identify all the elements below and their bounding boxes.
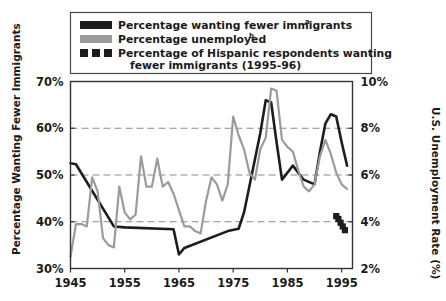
y-axis-title: Percentage Wanting Fewer Immigrants [10,23,22,255]
legend-swatch-gray-bar [80,35,112,43]
y2-tick-label: 10% [361,75,389,89]
chart-figure: Percentage wanting fewer immigrants a Pe… [0,0,446,301]
x-tick-label: 1995 [326,276,358,290]
series-marker [342,227,348,233]
y-tick-label: 60% [36,121,64,135]
legend-label-2-line2: fewer immigrants (1995-96) [130,59,301,72]
y-tick-label: 70% [36,75,64,89]
y-tick-label: 30% [36,262,64,276]
x-tick-label: 1945 [54,276,86,290]
y2-tick-label: 8% [361,121,381,135]
x-tick-label: 1975 [217,276,249,290]
y-tick-label: 50% [36,168,64,182]
y2-axis-title: U.S. Unemployment Rate (%) [430,107,442,279]
legend-superscript-1: b [249,32,254,40]
y2-tick-label: 6% [361,168,381,182]
y2-tick-label: 4% [361,215,381,229]
legend-swatch-black-bar [80,21,112,29]
y2-tick-label: 2% [361,262,381,276]
legend-superscript-0: a [305,18,310,26]
legend-label-1: Percentage unemployed [118,33,266,46]
legend-label-0: Percentage wanting fewer immigrants [118,19,352,32]
legend-swatch-dotted-squares [80,49,112,57]
legend: Percentage wanting fewer immigrants a Pe… [71,13,393,74]
y-tick-label: 40% [36,215,64,229]
x-tick-label: 1965 [163,276,195,290]
x-tick-label: 1955 [109,276,141,290]
x-tick-label: 1985 [271,276,303,290]
